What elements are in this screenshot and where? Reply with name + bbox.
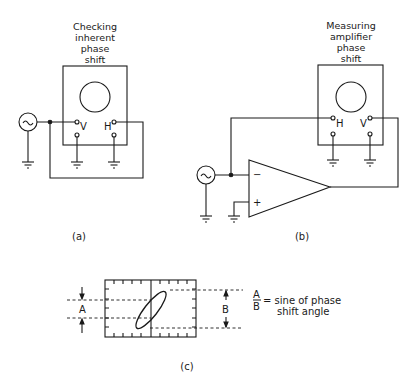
figure-b-title-line3: phase <box>337 42 366 53</box>
h-terminal-b-bottom <box>331 132 335 136</box>
v-label-a: V <box>80 121 87 132</box>
figure-b-title-line4: shift <box>341 53 362 64</box>
ground-icon <box>364 160 376 166</box>
v-label-b: V <box>360 118 367 129</box>
ground-icon <box>327 160 339 166</box>
equation-line2: shift angle <box>277 306 330 317</box>
figure-b-title-line2: amplifier <box>330 31 372 42</box>
phase-shift-diagram: Checking inherent phase shift Measuring … <box>0 0 418 387</box>
v-terminal-a-bottom <box>75 133 79 137</box>
crt-screen-b <box>336 82 366 112</box>
fraction-numerator: A <box>253 289 260 300</box>
ac-source-b-icon <box>197 166 215 184</box>
oscilloscope-a <box>63 66 127 145</box>
ground-icon <box>22 162 34 168</box>
h-terminal-a-top <box>112 120 116 124</box>
h-label-a: H <box>104 121 112 132</box>
oscilloscope-b <box>318 65 383 145</box>
ground-icon <box>71 162 83 168</box>
equation-line1: = sine of phase <box>263 295 341 306</box>
figure-a-title-line3: phase <box>81 43 110 54</box>
figure-a-title-line2: inherent <box>75 32 115 43</box>
opamp-noninverting-label: + <box>253 197 261 208</box>
fraction-denominator: B <box>253 301 260 312</box>
crt-screen-a <box>80 82 110 112</box>
caption-c: (c) <box>180 361 193 372</box>
caption-a: (a) <box>72 231 86 242</box>
figure-b <box>197 65 398 222</box>
ground-icon <box>108 162 120 168</box>
figure-a-title-line1: Checking <box>73 21 117 32</box>
figure-c <box>67 280 261 337</box>
ground-icon <box>228 216 240 222</box>
h-label-b: H <box>336 118 344 129</box>
ac-source-a-icon <box>19 113 37 131</box>
h-terminal-a-bottom <box>112 133 116 137</box>
figure-a-title-line4: shift <box>85 54 106 65</box>
ground-icon <box>200 216 212 222</box>
h-terminal-b-top <box>331 116 335 120</box>
v-terminal-b-top <box>368 116 372 120</box>
opamp-inverting-label: − <box>253 169 261 180</box>
a-dimension-label: A <box>79 304 86 315</box>
v-terminal-b-bottom <box>368 132 372 136</box>
v-terminal-a-top <box>75 120 79 124</box>
figure-b-title-line1: Measuring <box>326 20 375 31</box>
b-dimension-label: B <box>222 304 229 315</box>
caption-b: (b) <box>295 231 309 242</box>
